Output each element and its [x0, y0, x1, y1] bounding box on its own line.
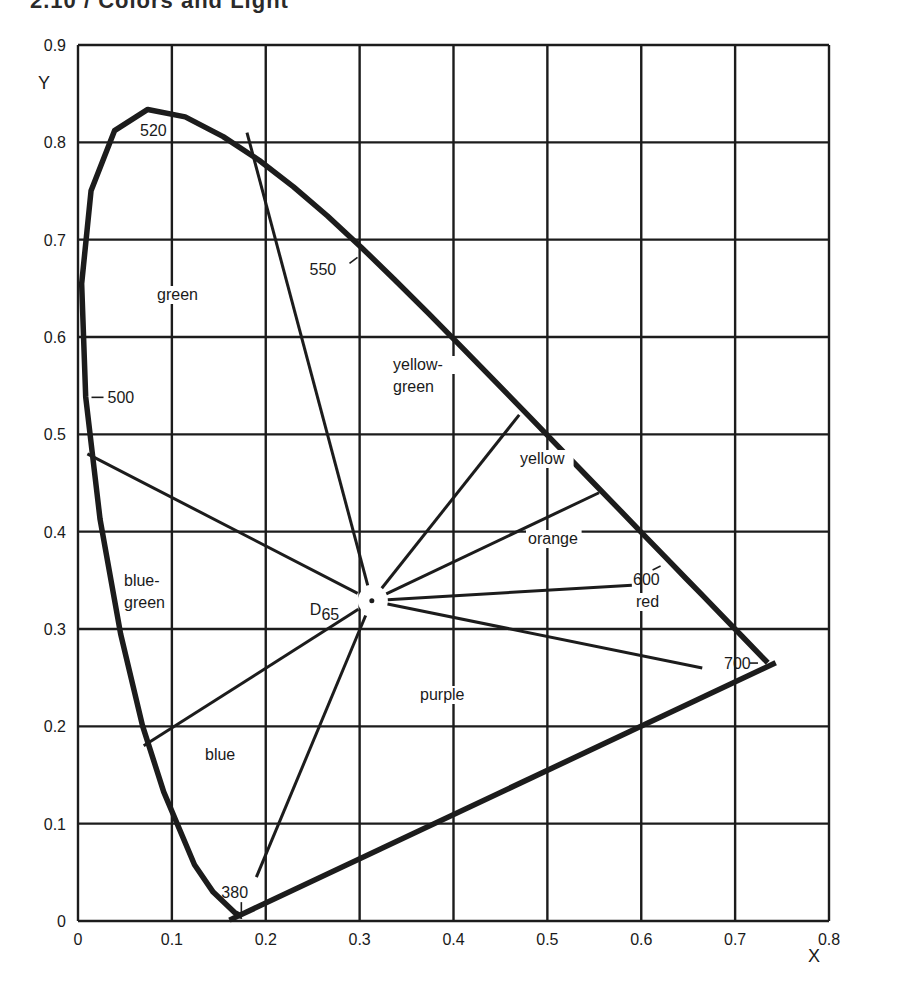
- wavelength-label: 380: [221, 884, 248, 901]
- white-point-label: D65: [310, 601, 339, 623]
- region-label: yellow: [520, 450, 565, 467]
- y-tick-label: 0.2: [44, 718, 66, 735]
- wavelength-label: 700: [724, 655, 751, 672]
- spectral-locus-curve: [82, 109, 768, 916]
- x-axis-label: X: [808, 946, 820, 966]
- wavelength-label: 500: [108, 389, 135, 406]
- region-label: blue-: [124, 572, 160, 589]
- x-tick-label: 0.5: [536, 931, 558, 948]
- y-axis-label: Y: [38, 73, 50, 93]
- x-tick-label: 0.8: [818, 931, 840, 948]
- white-point-dot: [369, 598, 374, 603]
- x-tick-label: 0.3: [349, 931, 371, 948]
- region-label: green: [157, 286, 198, 303]
- line-of-purples: [229, 663, 775, 920]
- y-tick-label: 0.8: [44, 134, 66, 151]
- y-tick-label: 0.5: [44, 426, 66, 443]
- wavelength-label: 520: [140, 122, 167, 139]
- region-label: green: [124, 594, 165, 611]
- wavelength-label: 550: [310, 261, 337, 278]
- y-tick-label: 0.3: [44, 621, 66, 638]
- x-tick-label: 0.2: [255, 931, 277, 948]
- region-label: blue: [205, 746, 235, 763]
- region-label: yellow-: [393, 356, 443, 373]
- x-tick-label: 0.4: [442, 931, 464, 948]
- region-label: purple: [420, 686, 465, 703]
- x-tick-label: 0: [74, 931, 83, 948]
- region-label: orange: [528, 530, 578, 547]
- x-tick-label: 0.7: [724, 931, 746, 948]
- y-tick-label: 0: [57, 913, 66, 930]
- region-label: green: [393, 378, 434, 395]
- x-tick-label: 0.1: [161, 931, 183, 948]
- region-label: red: [636, 593, 659, 610]
- y-tick-label: 0.6: [44, 329, 66, 346]
- wavelength-tick: [653, 566, 661, 570]
- chromaticity-chart: 00.10.20.30.40.50.60.70.800.10.20.30.40.…: [0, 0, 899, 992]
- region-boundary-line: [388, 604, 703, 668]
- y-tick-label: 0.7: [44, 232, 66, 249]
- region-boundary-line: [388, 585, 632, 600]
- wavelength-tick: [350, 257, 358, 263]
- y-tick-label: 0.9: [44, 37, 66, 54]
- region-boundary-line: [256, 616, 365, 878]
- x-tick-label: 0.6: [630, 931, 652, 948]
- y-tick-label: 0.1: [44, 816, 66, 833]
- wavelength-label: 600: [633, 571, 660, 588]
- y-tick-label: 0.4: [44, 524, 66, 541]
